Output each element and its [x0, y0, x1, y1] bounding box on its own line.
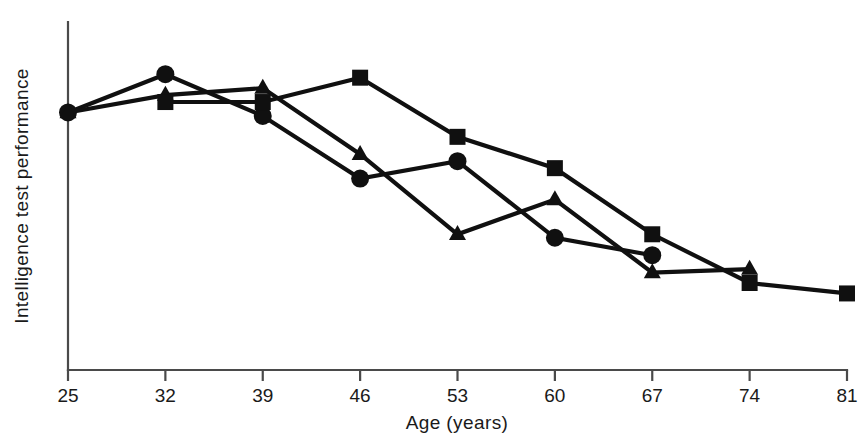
data-point-circle — [449, 152, 467, 170]
data-point-square — [644, 226, 660, 242]
figure-container: 253239465360677481 Age (years) Intellige… — [0, 0, 868, 443]
data-point-circle — [351, 170, 369, 188]
data-point-square — [450, 129, 466, 145]
x-axis-ticks — [68, 370, 847, 381]
data-point-square — [742, 275, 758, 291]
data-point-circle — [546, 229, 564, 247]
series-circle — [59, 65, 661, 264]
data-point-square — [547, 160, 563, 176]
x-axis-tick-labels: 253239465360677481 — [57, 385, 857, 406]
data-point-square — [352, 70, 368, 86]
data-point-square — [839, 285, 855, 301]
x-axis-tick-label: 39 — [252, 385, 273, 406]
x-axis-tick-label: 53 — [447, 385, 468, 406]
series-line-circle — [68, 74, 652, 255]
data-point-circle — [156, 65, 174, 83]
x-axis-tick-label: 74 — [739, 385, 761, 406]
x-axis-tick-label: 46 — [350, 385, 371, 406]
y-axis-title: Intelligence test performance — [11, 68, 32, 324]
x-axis-tick-label: 67 — [642, 385, 663, 406]
data-point-triangle — [254, 79, 271, 94]
x-axis-tick-label: 81 — [836, 385, 857, 406]
x-axis-tick-label: 32 — [155, 385, 176, 406]
data-point-square — [157, 94, 173, 110]
data-point-square — [255, 94, 271, 110]
series-line-triangle — [68, 88, 750, 273]
x-axis-title: Age (years) — [406, 412, 509, 433]
data-point-circle — [643, 246, 661, 264]
data-series-layer — [59, 65, 855, 301]
x-axis-tick-label: 25 — [57, 385, 78, 406]
x-axis-tick-label: 60 — [544, 385, 565, 406]
intelligence-vs-age-line-chart: 253239465360677481 Age (years) Intellige… — [0, 0, 868, 443]
data-point-triangle — [546, 190, 563, 205]
